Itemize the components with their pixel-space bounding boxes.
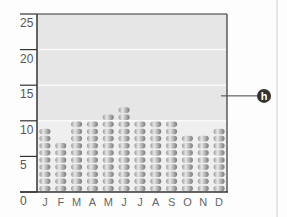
disc bbox=[87, 164, 98, 170]
disc bbox=[166, 129, 177, 135]
disc bbox=[182, 157, 193, 163]
disc bbox=[103, 164, 114, 170]
disc bbox=[134, 136, 145, 142]
disc bbox=[119, 136, 130, 142]
disc bbox=[166, 136, 177, 142]
disc bbox=[55, 186, 66, 192]
disc bbox=[39, 150, 50, 156]
disc bbox=[134, 129, 145, 135]
disc bbox=[182, 179, 193, 185]
disc bbox=[71, 171, 82, 177]
disc bbox=[119, 122, 130, 128]
disc bbox=[198, 143, 209, 149]
x-tick-label: M bbox=[104, 196, 113, 208]
disc bbox=[150, 157, 161, 163]
disc bbox=[119, 143, 130, 149]
disc bbox=[119, 186, 130, 192]
disc bbox=[39, 157, 50, 163]
x-tick-label: D bbox=[215, 196, 223, 208]
x-tick-label: A bbox=[89, 196, 97, 208]
disc bbox=[119, 107, 130, 113]
disc bbox=[39, 136, 50, 142]
disc bbox=[150, 179, 161, 185]
disc bbox=[103, 143, 114, 149]
disc bbox=[182, 171, 193, 177]
disc bbox=[166, 143, 177, 149]
disc bbox=[55, 157, 66, 163]
y-tick-label: 20 bbox=[20, 52, 34, 66]
disc bbox=[87, 157, 98, 163]
x-tick-label: J bbox=[137, 196, 143, 208]
disc bbox=[71, 157, 82, 163]
disc bbox=[71, 164, 82, 170]
disc bbox=[39, 179, 50, 185]
x-tick-label: N bbox=[199, 196, 207, 208]
disc bbox=[134, 164, 145, 170]
disc bbox=[119, 150, 130, 156]
bar bbox=[103, 114, 114, 191]
disc bbox=[182, 143, 193, 149]
disc bbox=[55, 150, 66, 156]
x-ticks: JFMAMJJASOND bbox=[42, 196, 223, 208]
disc bbox=[214, 179, 225, 185]
y-ticks: 0510152025 bbox=[20, 14, 37, 208]
shaded-band bbox=[37, 14, 227, 121]
disc bbox=[214, 171, 225, 177]
x-tick-label: A bbox=[152, 196, 160, 208]
disc bbox=[214, 129, 225, 135]
disc bbox=[198, 150, 209, 156]
y-tick-label: 5 bbox=[20, 158, 27, 172]
disc bbox=[166, 122, 177, 128]
disc bbox=[87, 171, 98, 177]
disc bbox=[87, 143, 98, 149]
disc bbox=[198, 171, 209, 177]
disc bbox=[103, 122, 114, 128]
bar bbox=[214, 129, 225, 192]
disc bbox=[134, 157, 145, 163]
disc bbox=[39, 129, 50, 135]
disc bbox=[198, 179, 209, 185]
disc bbox=[119, 129, 130, 135]
disc bbox=[150, 171, 161, 177]
disc bbox=[150, 136, 161, 142]
disc bbox=[214, 164, 225, 170]
disc bbox=[55, 164, 66, 170]
disc bbox=[71, 179, 82, 185]
x-tick-label: F bbox=[57, 196, 64, 208]
x-tick-label: S bbox=[168, 196, 175, 208]
disc bbox=[103, 171, 114, 177]
disc bbox=[39, 186, 50, 192]
y-tick-label: 0 bbox=[20, 194, 27, 208]
disc bbox=[87, 122, 98, 128]
disc bbox=[166, 171, 177, 177]
disc bbox=[134, 171, 145, 177]
disc bbox=[71, 122, 82, 128]
disc bbox=[119, 164, 130, 170]
disc bbox=[182, 150, 193, 156]
disc bbox=[214, 136, 225, 142]
disc bbox=[103, 129, 114, 135]
disc bbox=[87, 136, 98, 142]
disc bbox=[214, 186, 225, 192]
disc bbox=[55, 179, 66, 185]
disc bbox=[150, 150, 161, 156]
disc bbox=[134, 122, 145, 128]
y-tick-label: 25 bbox=[20, 16, 34, 30]
disc bbox=[198, 136, 209, 142]
x-tick-label: J bbox=[42, 196, 48, 208]
disc bbox=[87, 150, 98, 156]
disc bbox=[103, 179, 114, 185]
disc bbox=[134, 186, 145, 192]
disc bbox=[119, 171, 130, 177]
disc bbox=[134, 150, 145, 156]
disc bbox=[39, 164, 50, 170]
disc bbox=[87, 186, 98, 192]
disc bbox=[214, 150, 225, 156]
disc bbox=[119, 114, 130, 120]
disc bbox=[150, 164, 161, 170]
disc bbox=[103, 136, 114, 142]
disc bbox=[166, 157, 177, 163]
disc bbox=[166, 186, 177, 192]
disc bbox=[150, 122, 161, 128]
disc bbox=[103, 150, 114, 156]
